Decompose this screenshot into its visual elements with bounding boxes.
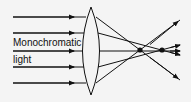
- label-light: light: [13, 55, 31, 65]
- marginal-focus-point: [137, 47, 142, 52]
- paraxial-focus-point: [159, 47, 164, 52]
- label-monochromatic: Monochromatic: [13, 38, 81, 48]
- spherical-aberration-diagram: [0, 0, 191, 102]
